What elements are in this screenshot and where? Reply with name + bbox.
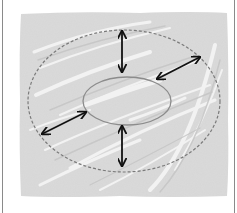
textured-surface [20,12,229,197]
ellipse-expansion-diagram [0,0,237,213]
